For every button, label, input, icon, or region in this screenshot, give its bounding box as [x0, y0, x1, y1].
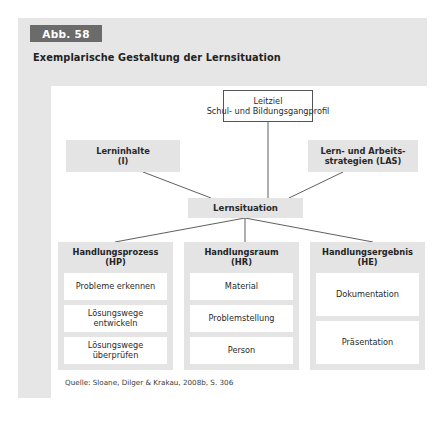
- column-hr-body: Material Problemstellung Person: [190, 273, 293, 364]
- connector-lernsituation-he: [245, 218, 373, 242]
- diagram-canvas: Leitziel Schul- und Bildungsgangprofil L…: [51, 86, 433, 402]
- cell-he-1: Dokumentation: [316, 273, 419, 316]
- column-hp-header-line1: Handlungsprozess: [64, 247, 167, 257]
- connector-lerninhalte-lernsituation: [143, 172, 211, 198]
- node-lerninhalte: Lerninhalte (I): [66, 140, 180, 172]
- column-handlungsprozess: Handlungsprozess (HP) Probleme erkennen …: [58, 242, 173, 370]
- connector-las-lernsituation: [289, 172, 343, 198]
- cell-hr-3: Person: [190, 337, 293, 364]
- cell-hr-2: Problemstellung: [190, 305, 293, 332]
- figure-badge: Abb. 58: [30, 25, 102, 42]
- column-he-body: Dokumentation Präsentation: [316, 273, 419, 364]
- cell-hp-2: Lösungswege entwickeln: [64, 305, 167, 332]
- column-hr-header-line2: (HR): [190, 257, 293, 267]
- figure-panel: Leitziel Schul- und Bildungsgangprofil L…: [18, 18, 427, 398]
- node-lerninhalte-line1: Lerninhalte: [96, 146, 150, 156]
- column-he-header-line2: (HE): [316, 257, 419, 267]
- connector-lernsituation-hp: [115, 218, 245, 242]
- node-leitziel-line2: Schul- und Bildungsgangprofil: [207, 106, 330, 116]
- column-hp-header-line2: (HP): [64, 257, 167, 267]
- node-lern-und-arbeitsstrategien: Lern- und Arbeits- strategien (LAS): [308, 140, 418, 172]
- cell-hp-3: Lösungswege überprüfen: [64, 337, 167, 364]
- column-handlungsraum: Handlungsraum (HR) Material Problemstell…: [184, 242, 299, 370]
- column-handlungsergebnis: Handlungsergebnis (HE) Dokumentation Prä…: [310, 242, 425, 370]
- node-leitziel: Leitziel Schul- und Bildungsgangprofil: [223, 90, 313, 122]
- node-las-line2: strategien (LAS): [325, 156, 402, 166]
- column-hp-body: Probleme erkennen Lösungswege entwickeln…: [64, 273, 167, 364]
- source-note: Quelle: Sloane, Dilger & Krakau, 2008b, …: [65, 378, 233, 387]
- page-title: Exemplarische Gestaltung der Lernsituati…: [33, 52, 281, 63]
- node-lernsituation: Lernsituation: [188, 198, 303, 218]
- column-he-header-line1: Handlungsergebnis: [316, 247, 419, 257]
- column-he-header: Handlungsergebnis (HE): [316, 247, 419, 268]
- node-las-line1: Lern- und Arbeits-: [320, 146, 405, 156]
- cell-hr-1: Material: [190, 273, 293, 300]
- cell-he-2: Präsentation: [316, 321, 419, 364]
- column-hp-header: Handlungsprozess (HP): [64, 247, 167, 268]
- node-lerninhalte-line2: (I): [118, 156, 129, 166]
- column-hr-header: Handlungsraum (HR): [190, 247, 293, 268]
- column-hr-header-line1: Handlungsraum: [190, 247, 293, 257]
- node-leitziel-line1: Leitziel: [254, 96, 283, 106]
- cell-hp-1: Probleme erkennen: [64, 273, 167, 300]
- node-lernsituation-label: Lernsituation: [213, 203, 278, 214]
